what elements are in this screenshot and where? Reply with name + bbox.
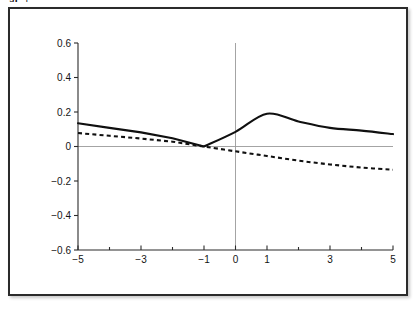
x-tick-label: 0 xyxy=(233,254,239,265)
x-tick-label: 3 xyxy=(327,254,333,265)
y-tick-label: 0 xyxy=(65,141,71,152)
figure-container: −0.6−0.4−0.200.20.40.6 −5−3−10135 High F… xyxy=(0,0,419,311)
x-tick-label: −3 xyxy=(135,254,147,265)
y-tick-label: 0.6 xyxy=(57,38,71,49)
x-tick-label: 5 xyxy=(390,254,396,265)
y-tick-label: 0.4 xyxy=(57,72,71,83)
x-tick-label: −1 xyxy=(198,254,210,265)
y-tick-label: −0.4 xyxy=(51,210,71,221)
y-tick-label: 0.2 xyxy=(57,107,71,118)
y-tick-label: −0.2 xyxy=(51,176,71,187)
x-tick-label: 1 xyxy=(264,254,270,265)
y-axis-ticks xyxy=(74,43,78,250)
x-axis-ticks xyxy=(78,246,393,251)
x-tick-label: −5 xyxy=(72,254,84,265)
y-axis-title-line-2: Consumption Expenditures xyxy=(0,0,69,2)
y-tick-label: −0.6 xyxy=(51,245,71,256)
y-axis-tick-labels: −0.6−0.4−0.200.20.40.6 xyxy=(51,38,71,256)
x-axis-tick-labels: −5−3−10135 xyxy=(72,254,396,265)
growth-rate-line-chart: −0.6−0.4−0.200.20.40.6 −5−3−10135 High F… xyxy=(0,0,419,311)
